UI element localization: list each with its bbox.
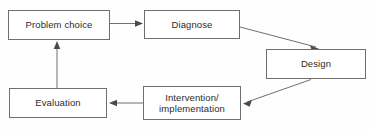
node-diagnose-label: Diagnose xyxy=(170,19,215,31)
node-design-label: Design xyxy=(299,58,333,70)
edge-design-to-intervention xyxy=(247,80,311,103)
node-design[interactable]: Design xyxy=(266,49,366,79)
node-evaluation-label: Evaluation xyxy=(33,97,82,109)
node-diagnose[interactable]: Diagnose xyxy=(144,10,240,39)
flowchart-canvas: Problem choice Diagnose Design Intervent… xyxy=(0,0,372,130)
arrowhead-to-diagnose xyxy=(135,20,143,27)
arrowhead-to-problem-choice xyxy=(54,41,61,49)
node-problem-choice[interactable]: Problem choice xyxy=(8,10,110,40)
node-intervention-implementation[interactable]: Intervention/ implementation xyxy=(143,86,241,120)
edge-diagnose-to-design xyxy=(240,27,316,47)
node-evaluation[interactable]: Evaluation xyxy=(9,88,107,118)
node-problem-choice-label: Problem choice xyxy=(24,19,95,31)
arrowhead-to-evaluation xyxy=(109,100,117,107)
node-intervention-implementation-label: Intervention/ implementation xyxy=(157,92,227,115)
arrowhead-to-intervention xyxy=(243,100,252,107)
